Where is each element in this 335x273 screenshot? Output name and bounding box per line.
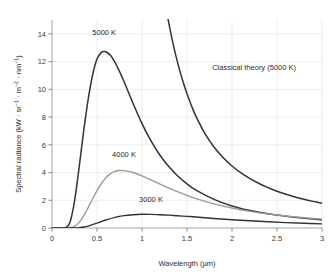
y-axis-title-mid1: · m xyxy=(14,87,23,100)
x-tick-label: 1.5 xyxy=(182,234,192,243)
x-axis-title: Wavelength (µm) xyxy=(159,259,216,268)
x-tick-label: 2 xyxy=(230,234,234,243)
y-tick-label: 6 xyxy=(42,141,46,150)
y-tick-label: 12 xyxy=(38,57,46,66)
y-axis-title: Spectral radiance (kW · sr−1 · m−2 · nm−… xyxy=(13,55,23,193)
y-axis-title-base: Spectral radiance (kW · sr xyxy=(14,106,23,193)
chart-svg: 0246810121400.511.522.53 5000 K4000 K300… xyxy=(0,0,335,273)
y-tick-label: 10 xyxy=(38,85,46,94)
label-3000k: 3000 K xyxy=(139,195,163,204)
y-tick-label: 2 xyxy=(42,196,46,205)
x-tick-label: 1 xyxy=(140,234,144,243)
y-tick-label: 0 xyxy=(42,224,46,233)
chart-background xyxy=(0,0,335,273)
blackbody-radiation-chart: 0246810121400.511.522.53 5000 K4000 K300… xyxy=(0,0,335,273)
x-tick-label: 2.5 xyxy=(272,234,282,243)
y-tick-label: 8 xyxy=(42,113,46,122)
label-4000k: 4000 K xyxy=(112,150,136,159)
y-tick-label: 14 xyxy=(38,30,46,39)
y-tick-label: 4 xyxy=(42,168,46,177)
x-tick-label: 0 xyxy=(50,234,54,243)
x-tick-label: 0.5 xyxy=(92,234,102,243)
y-axis-title-mid2: · nm xyxy=(14,64,23,81)
label-classical-theory: Classical theory (5000 K) xyxy=(212,63,296,72)
x-tick-label: 3 xyxy=(320,234,324,243)
label-5000k: 5000 K xyxy=(92,28,116,37)
